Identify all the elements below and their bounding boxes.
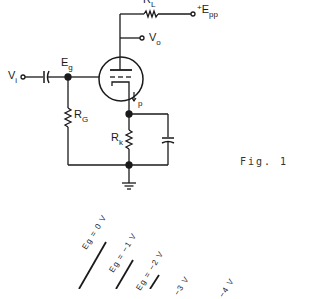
grid-resistor-icon <box>65 108 71 127</box>
load-resistor-icon <box>144 11 158 17</box>
plate-current-label: Ip <box>135 93 143 104</box>
supply-label: +Epp <box>197 4 218 15</box>
cathode-resistor-label: Rk <box>111 132 123 143</box>
cathode-resistor-icon <box>126 130 132 149</box>
output-label: Vo <box>149 32 161 43</box>
load-resistor-label: RL <box>143 0 155 5</box>
input-label: Vi <box>8 70 17 81</box>
grid-node-label: Eg <box>61 57 73 68</box>
figure-caption: Fig. 1 <box>240 157 288 167</box>
grid-resistor-label: RG <box>74 109 88 120</box>
input-terminal-icon <box>21 75 25 79</box>
ground-icon <box>122 183 136 189</box>
output-terminal-icon <box>140 36 144 40</box>
supply-terminal-icon <box>191 12 195 16</box>
